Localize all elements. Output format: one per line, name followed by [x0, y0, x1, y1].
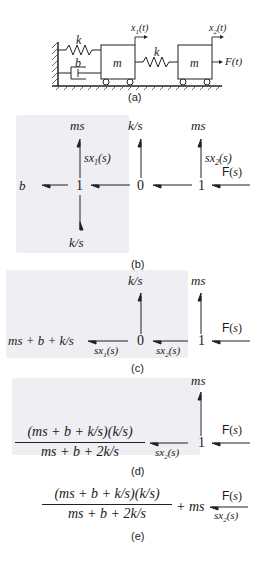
force-fs-label: F(s) — [222, 490, 242, 502]
caption-e: (e) — [131, 530, 144, 542]
result-arrow — [0, 0, 268, 562]
flow-sx2-label: sx2(s) — [214, 510, 238, 524]
